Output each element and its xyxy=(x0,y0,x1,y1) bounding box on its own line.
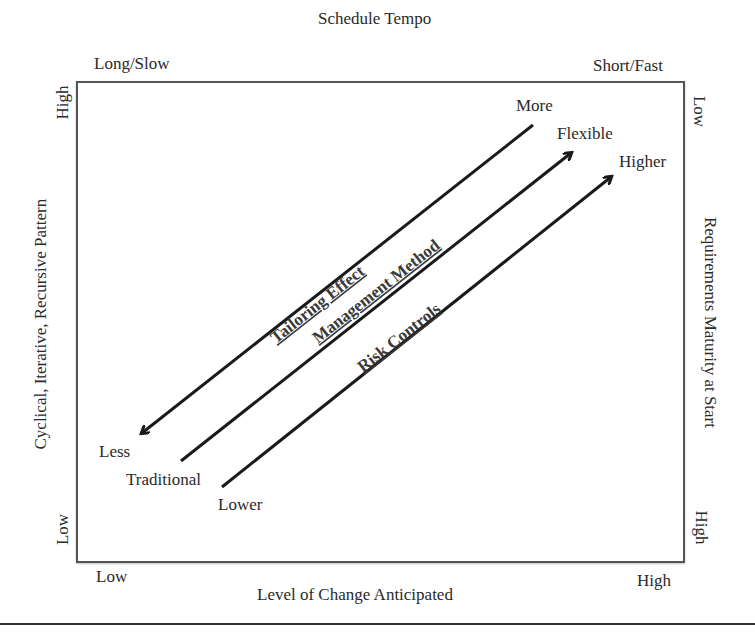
tailoring-start-label: More xyxy=(516,97,553,114)
tailoring-end-label: Less xyxy=(99,443,130,460)
management-start-label: Traditional xyxy=(126,471,201,488)
tailoring-effect-arrow: Tailoring Effect xyxy=(142,125,533,433)
horizontal-rule xyxy=(0,623,755,625)
risk-start-label: Lower xyxy=(218,496,262,513)
risk-controls-label: Risk Controls xyxy=(354,299,445,376)
management-end-label: Flexible xyxy=(557,125,613,142)
risk-end-label: Higher xyxy=(619,153,666,170)
management-method-arrow: Management Method xyxy=(181,153,571,461)
arrows-layer: Tailoring Effect Management Method Risk … xyxy=(0,0,755,644)
